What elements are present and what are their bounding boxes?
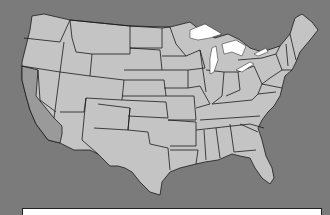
us-map [0, 0, 330, 215]
caption-box [22, 208, 322, 215]
map-figure [0, 0, 330, 215]
